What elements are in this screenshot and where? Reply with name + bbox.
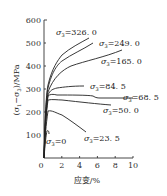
curve-sigma3-23.5	[44, 111, 86, 158]
y-tick-200: 200	[26, 108, 41, 117]
label-sigma3-23.5: σ3=23. 5	[84, 134, 120, 144]
y-tick-500: 500	[26, 39, 41, 48]
y-tick-100: 100	[26, 131, 41, 140]
y-tick-600: 600	[26, 16, 41, 25]
x-tick-2: 2	[59, 161, 64, 170]
label-sigma3-165: σ3=165. 0	[101, 57, 142, 67]
y-axis-title: (σ1−σ3)/MPa	[12, 64, 22, 115]
label-sigma3-50.0: σ3=50. 0	[103, 106, 139, 116]
x-tick-10: 10	[128, 161, 138, 170]
y-tick-400: 400	[26, 62, 41, 71]
x-tick-0: 0	[38, 161, 43, 170]
x-tick-4: 4	[77, 161, 82, 170]
curve-sigma3-50.0	[44, 100, 111, 158]
x-axis-title: 应变/%	[74, 175, 101, 185]
label-sigma3-249: σ3=249. 0	[99, 39, 140, 49]
label-sigma3-84.5: σ3=84. 5	[90, 82, 126, 92]
curve-sigma3-84.5	[44, 86, 84, 158]
svg-text:(σ1−σ3)/MPa: (σ1−σ3)/MPa	[12, 64, 22, 115]
label-sigma3-326: σ3=326. 0	[56, 28, 97, 38]
y-ticks: 100 200 300 400 500 600	[26, 16, 46, 140]
curve-sigma3-68.5	[44, 94, 133, 158]
label-sigma3-68.5: σ3=68. 5	[123, 93, 159, 103]
y-tick-300: 300	[26, 85, 41, 94]
x-tick-8: 8	[113, 161, 118, 170]
stress-strain-chart: 100 200 300 400 500 600 0 2 4 6 8 10 应变/…	[0, 0, 167, 196]
x-tick-6: 6	[95, 161, 100, 170]
label-sigma3-0: σ3=0	[46, 137, 66, 147]
